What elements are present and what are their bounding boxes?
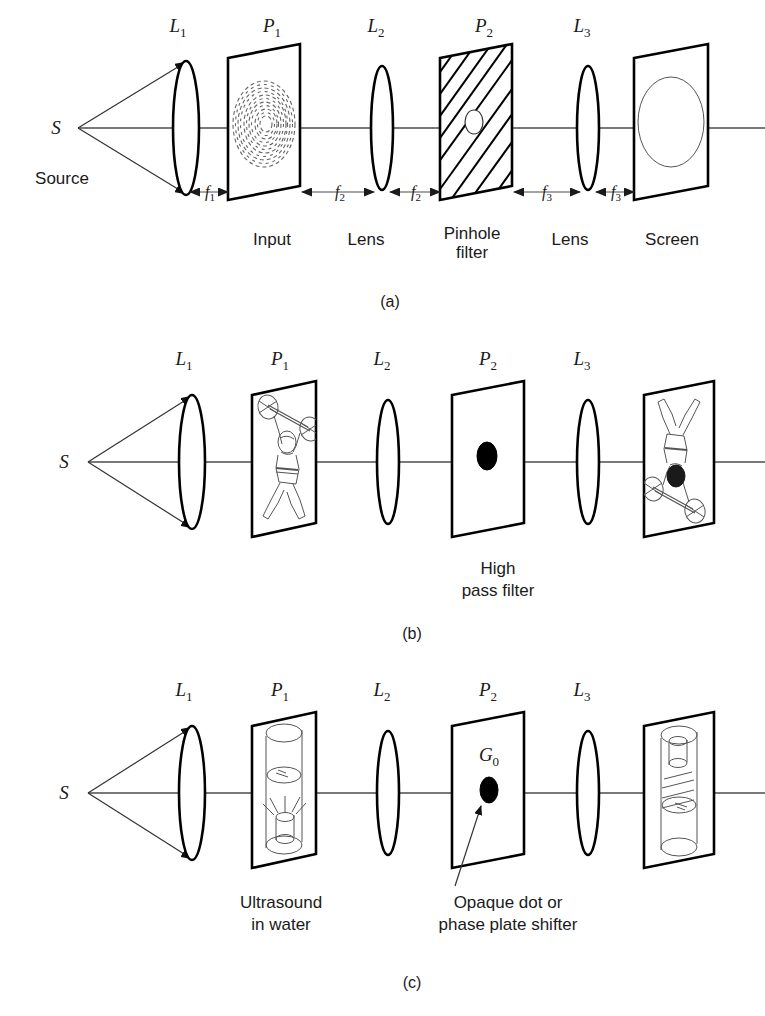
caption-c: (c): [403, 974, 422, 991]
lens-L2-b: [377, 400, 399, 524]
optical-filtering-figure: L1 P1 L2 P2 L3 S Source f1 f2 f2 f3 f3 I…: [0, 0, 765, 1016]
label-P1-b-sub: 1: [283, 358, 290, 373]
screen-b: [641, 381, 714, 537]
label-L3-c-sub: 3: [584, 689, 591, 704]
label-P2-c-base: P: [478, 679, 491, 700]
lens-L2-c: [377, 731, 399, 855]
lens-L1-a: [173, 61, 199, 195]
input-label-c-line1: Ultrasound: [240, 893, 322, 912]
label-L3-b-base: L: [572, 348, 584, 369]
label-P1-a-base: P: [262, 15, 275, 36]
label-pinhole-line2-a: filter: [456, 243, 488, 262]
label-L2-a-sub: 2: [378, 25, 385, 40]
label-L1-b-sub: 1: [186, 358, 193, 373]
label-P2-a-base: P: [474, 15, 487, 36]
label-P2-b-base: P: [478, 348, 491, 369]
pinhole-aperture-a: [465, 110, 483, 134]
label-G0-base-c: G: [479, 744, 493, 765]
screen-c: [644, 712, 714, 868]
source-name-a: Source: [35, 169, 89, 188]
input-label-c-line2: in water: [251, 915, 311, 934]
plane-P1-a: [228, 44, 300, 200]
opaque-dot-b: [477, 442, 497, 470]
f2b-a-sub: 2: [415, 191, 421, 203]
filter-label-b-line2: pass filter: [462, 581, 535, 600]
plane-P1-b: [252, 381, 322, 537]
source-symbol-a: S: [51, 117, 61, 138]
label-L3-a-base: L: [572, 15, 584, 36]
lens-L3-c: [577, 731, 599, 855]
label-screen-a: Screen: [645, 230, 699, 249]
label-L2-a-base: L: [366, 15, 378, 36]
label-L1-c-sub: 1: [186, 689, 193, 704]
plane-P1-c: [252, 712, 316, 868]
label-input-a: Input: [253, 230, 291, 249]
caption-a: (a): [380, 293, 400, 310]
label-L1-a-sub: 1: [180, 25, 187, 40]
label-P2-a-sub: 2: [487, 25, 494, 40]
label-L2-b-sub: 2: [384, 358, 391, 373]
label-P1-c-sub: 1: [283, 689, 290, 704]
lens-L3-b: [577, 400, 599, 524]
screen-a: [634, 44, 708, 200]
lens-L1-c: [179, 726, 205, 860]
f3b-a-sub: 3: [615, 191, 621, 203]
plane-P2-b: [452, 381, 524, 537]
label-P2-b-sub: 2: [491, 358, 498, 373]
label-P1-b-base: P: [270, 348, 283, 369]
label-L1-a-base: L: [168, 15, 180, 36]
filter-label-c-line2: phase plate shifter: [439, 915, 578, 934]
label-L3-a-sub: 3: [584, 25, 591, 40]
f3a-a-sub: 3: [546, 191, 552, 203]
source-symbol-b: S: [59, 451, 69, 472]
label-L3-c-base: L: [572, 679, 584, 700]
label-L2-c-base: L: [372, 679, 384, 700]
lens-L1-b: [179, 395, 205, 529]
label-pinhole-line1-a: Pinhole: [444, 224, 501, 243]
lens-L2-a: [371, 66, 393, 190]
source-symbol-c: S: [59, 782, 69, 803]
filter-label-c-line1: Opaque dot or: [454, 893, 563, 912]
caption-b: (b): [402, 625, 422, 642]
filter-label-b-line1: High: [481, 559, 516, 578]
label-L3-b-sub: 3: [584, 358, 591, 373]
f2a-a-sub: 2: [339, 191, 345, 203]
label-G0-sub-c: 0: [493, 754, 500, 769]
label-P1-c-base: P: [270, 679, 283, 700]
label-L1-b-base: L: [174, 348, 186, 369]
label-L2-c-sub: 2: [384, 689, 391, 704]
label-lens-2-a: Lens: [348, 230, 385, 249]
label-L2-b-base: L: [372, 348, 384, 369]
label-L1-c-base: L: [174, 679, 186, 700]
lens-L3-a: [577, 66, 599, 190]
label-lens-3-a: Lens: [552, 230, 589, 249]
f1-a-sub: 1: [209, 191, 215, 203]
label-P2-c-sub: 2: [491, 689, 498, 704]
opaque-dot-G0-c: [480, 777, 498, 803]
label-P1-a-sub: 1: [275, 25, 282, 40]
